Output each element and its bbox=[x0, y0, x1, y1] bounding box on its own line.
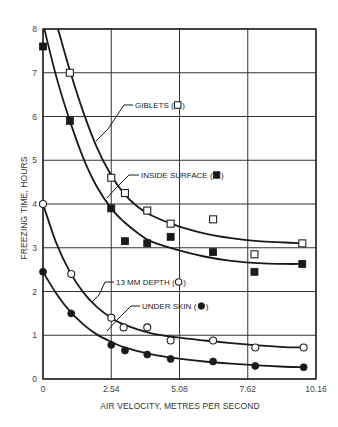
x-tick-label: 2.54 bbox=[103, 384, 120, 394]
x-tick-label: 7.62 bbox=[239, 384, 256, 394]
filled-circle-marker bbox=[198, 303, 205, 310]
y-tick-label: 7 bbox=[32, 68, 37, 78]
filled-circle-marker bbox=[68, 310, 75, 317]
open-square-marker bbox=[167, 220, 174, 227]
series-label-text: UNDER SKIN bbox=[142, 302, 192, 311]
filled-circle-marker bbox=[167, 355, 174, 362]
series-label-close-paren: ) bbox=[182, 101, 185, 110]
series-label-close-paren: ) bbox=[221, 171, 224, 180]
leader-line bbox=[96, 105, 133, 141]
filled-square-marker bbox=[210, 249, 217, 256]
filled-circle-marker bbox=[121, 347, 128, 354]
filled-circle-marker bbox=[210, 358, 217, 365]
series-label-close-paren: ) bbox=[183, 278, 186, 287]
open-circle-marker bbox=[68, 271, 75, 278]
open-circle-marker bbox=[120, 324, 127, 331]
filled-square-marker bbox=[299, 260, 306, 267]
series-label-open-paren: ( bbox=[194, 302, 197, 311]
filled-circle-marker bbox=[300, 364, 307, 371]
fit-curve-inside-surface bbox=[44, 29, 302, 264]
open-square-marker bbox=[174, 102, 181, 109]
y-tick-label: 8 bbox=[32, 24, 37, 34]
filled-square-marker bbox=[213, 172, 220, 179]
series-label-text: 13 MM DEPTH ( bbox=[116, 278, 175, 287]
filled-circle-marker bbox=[108, 341, 115, 348]
y-axis-title: FREEZING TIME, HOURS bbox=[19, 156, 29, 259]
y-tick-label: 5 bbox=[32, 155, 37, 165]
series-label-close-paren: ) bbox=[206, 302, 209, 311]
y-tick-label: 3 bbox=[32, 243, 37, 253]
x-axis-ticks: 02.545.087.6210.16 bbox=[41, 384, 327, 394]
open-square-marker bbox=[144, 207, 151, 214]
open-circle-marker bbox=[210, 337, 217, 344]
y-tick-label: 6 bbox=[32, 112, 37, 122]
open-square-marker bbox=[299, 240, 306, 247]
open-square-marker bbox=[251, 251, 258, 258]
filled-square-marker bbox=[66, 117, 73, 124]
y-tick-label: 1 bbox=[32, 330, 37, 340]
filled-square-marker bbox=[144, 240, 151, 247]
x-tick-label: 5.08 bbox=[171, 384, 188, 394]
series-label-text: INSIDE SURFACE ( bbox=[141, 171, 213, 180]
x-tick-label: 0 bbox=[41, 384, 46, 394]
open-square-marker bbox=[210, 216, 217, 223]
filled-square-marker bbox=[167, 233, 174, 240]
freezing-time-chart: 012345678 02.545.087.6210.16 FREEZING TI… bbox=[0, 0, 338, 427]
series-labels: GIBLETS ()INSIDE SURFACE ()13 MM DEPTH (… bbox=[92, 101, 224, 331]
open-circle-marker bbox=[167, 337, 174, 344]
series-label-text: GIBLETS ( bbox=[135, 101, 174, 110]
open-circle-marker bbox=[300, 344, 307, 351]
series-label-depth: 13 MM DEPTH () bbox=[92, 278, 186, 302]
open-square-marker bbox=[108, 174, 115, 181]
open-circle-marker bbox=[175, 279, 182, 286]
open-circle-marker bbox=[252, 344, 259, 351]
filled-square-marker bbox=[40, 43, 47, 50]
filled-square-marker bbox=[108, 205, 115, 212]
x-tick-label: 10.16 bbox=[305, 384, 327, 394]
filled-circle-marker bbox=[40, 268, 47, 275]
open-circle-marker bbox=[40, 201, 47, 208]
open-circle-marker bbox=[144, 324, 151, 331]
open-square-marker bbox=[66, 69, 73, 76]
grid-lines bbox=[43, 29, 316, 379]
filled-circle-marker bbox=[144, 351, 151, 358]
fit-curves bbox=[43, 29, 304, 367]
filled-circle-marker bbox=[252, 362, 259, 369]
open-square-marker bbox=[121, 190, 128, 197]
filled-square-marker bbox=[121, 238, 128, 245]
y-axis-ticks: 012345678 bbox=[32, 24, 37, 384]
open-circle-marker bbox=[108, 314, 115, 321]
x-axis-title: AIR VELOCITY, METRES PER SECOND bbox=[100, 401, 259, 411]
fit-curve-giblets bbox=[58, 29, 302, 243]
filled-square-marker bbox=[251, 268, 258, 275]
y-tick-label: 2 bbox=[32, 287, 37, 297]
y-tick-label: 4 bbox=[32, 199, 37, 209]
series-label-giblets: GIBLETS () bbox=[96, 101, 185, 141]
y-tick-label: 0 bbox=[32, 374, 37, 384]
